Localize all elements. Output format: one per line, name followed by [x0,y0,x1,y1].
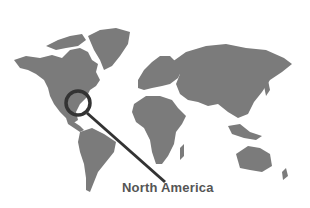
africa-shape [132,96,186,164]
madagascar-shape [180,144,184,160]
southeast-asia-islands-shape [228,124,262,140]
new-zealand-shape [282,168,288,180]
australia-shape [236,146,272,172]
arctic-islands-shape [46,34,86,50]
world-map [0,0,310,208]
world-map-illustration: North America [0,0,310,208]
asia-shape [172,44,292,118]
continents [14,28,292,192]
south-america-shape [78,128,116,192]
region-label: North America [122,180,214,195]
